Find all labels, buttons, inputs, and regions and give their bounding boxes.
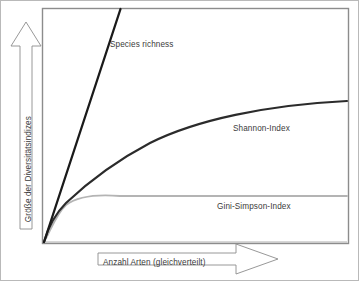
series-label-gini-simpson-index: Gini-Simpson-Index bbox=[217, 203, 291, 211]
series-label-species-richness: Species richness bbox=[110, 41, 174, 49]
series-label-shannon-index: Shannon-Index bbox=[233, 125, 290, 133]
chart-canvas bbox=[0, 0, 359, 281]
y-axis-label: Größe der Diversitätsindizes bbox=[25, 99, 33, 239]
x-axis-label: Anzahl Arten (gleichverteilt) bbox=[103, 259, 206, 267]
diversity-index-figure: Species richness Shannon-Index Gini-Simp… bbox=[0, 0, 359, 281]
